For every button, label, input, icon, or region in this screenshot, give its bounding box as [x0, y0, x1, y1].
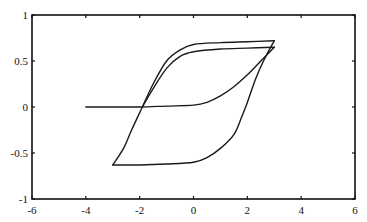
y-tick-label: -0.5 [11, 147, 29, 159]
x-tick-label: -4 [81, 204, 91, 216]
y-tick-label: 0.5 [14, 55, 28, 67]
series-ascending-branch [113, 41, 275, 165]
x-tick-label: 4 [298, 204, 304, 216]
series-outer-descending-branch [113, 41, 275, 165]
x-tick-label: 2 [245, 204, 251, 216]
y-tick-labels: -1-0.500.51 [11, 9, 29, 205]
y-tick-label: 1 [23, 9, 29, 21]
x-tick-label: -6 [27, 204, 37, 216]
x-tick-label: 6 [352, 204, 358, 216]
x-tick-label: -2 [135, 204, 144, 216]
x-tick-labels: -6-4-20246 [27, 204, 358, 216]
y-tick-label: 0 [23, 101, 29, 113]
x-tick-label: 0 [191, 204, 197, 216]
axis-ticks [32, 15, 355, 199]
plot-frame [32, 15, 355, 199]
hysteresis-chart: -6-4-20246 -1-0.500.51 [0, 0, 367, 222]
curves [86, 41, 274, 165]
y-tick-label: -1 [19, 193, 28, 205]
series-inner-descending-branch [142, 47, 274, 107]
